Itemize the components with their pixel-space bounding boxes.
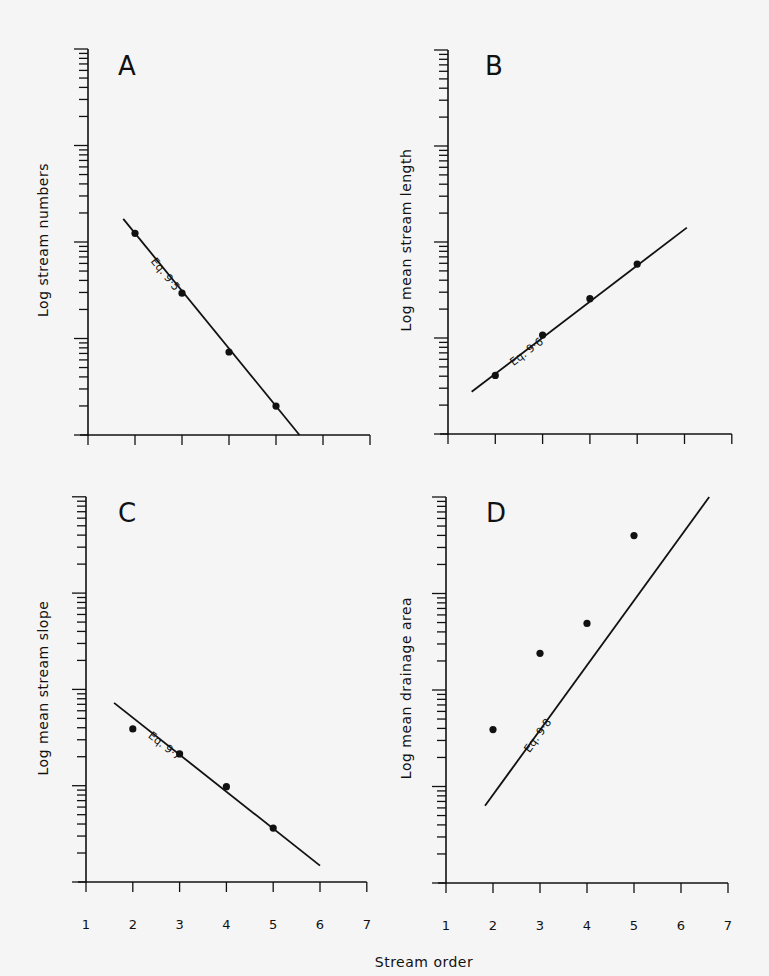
x-tick-label: 2 <box>129 917 137 932</box>
panel-letter: D <box>486 498 506 528</box>
data-point <box>583 620 590 627</box>
panel-d: 1234567DLog mean drainage areaEq. 9·8 <box>398 497 732 933</box>
data-point <box>492 372 499 379</box>
data-point <box>176 750 183 757</box>
x-tick-label: 6 <box>316 917 324 932</box>
data-point <box>634 260 641 267</box>
data-point <box>586 295 593 302</box>
data-point <box>630 532 637 539</box>
x-tick-label: 6 <box>677 918 685 933</box>
equation-label: Eq. 9·7 <box>146 729 184 763</box>
panel-letter: A <box>118 51 136 81</box>
data-point <box>536 650 543 657</box>
fit-line <box>472 228 687 392</box>
y-axis-label: Log mean stream length <box>398 149 414 332</box>
y-axis-label: Log stream numbers <box>35 163 51 317</box>
data-point <box>225 348 232 355</box>
stream-order-figure: ALog stream numbersEq. 9·5BLog mean stre… <box>0 0 769 976</box>
x-tick-label: 4 <box>583 918 591 933</box>
x-tick-label: 1 <box>82 917 90 932</box>
panel-b: BLog mean stream lengthEq. 9·6 <box>398 50 732 444</box>
fit-line <box>123 219 299 435</box>
fit-line <box>114 703 320 866</box>
x-tick-label: 4 <box>222 917 230 932</box>
panel-a: ALog stream numbersEq. 9·5 <box>35 49 370 445</box>
x-tick-label: 5 <box>630 918 638 933</box>
y-axis-label: Log mean drainage area <box>398 597 414 779</box>
data-point <box>270 824 277 831</box>
y-axis-label: Log mean stream slope <box>35 601 51 776</box>
panel-letter: C <box>118 498 136 528</box>
x-tick-label: 3 <box>536 918 544 933</box>
equation-label: Eq. 9·5 <box>148 255 182 293</box>
data-point <box>178 290 185 297</box>
x-tick-label: 1 <box>442 918 450 933</box>
x-tick-label: 7 <box>363 917 371 932</box>
data-point <box>223 783 230 790</box>
x-tick-label: 3 <box>175 917 183 932</box>
data-point <box>489 726 496 733</box>
equation-label: Eq. 9·6 <box>507 335 545 369</box>
data-point <box>539 332 546 339</box>
panel-c: 1234567CLog mean stream slopeEq. 9·7 <box>35 497 371 932</box>
panel-letter: B <box>485 51 503 81</box>
shared-x-axis-label: Stream order <box>375 954 473 970</box>
x-tick-label: 2 <box>489 918 497 933</box>
data-point <box>272 402 279 409</box>
equation-label: Eq. 9·8 <box>521 716 554 755</box>
x-tick-label: 5 <box>269 917 277 932</box>
x-tick-label: 7 <box>724 918 732 933</box>
data-point <box>129 725 136 732</box>
fit-line <box>485 497 709 806</box>
data-point <box>131 230 138 237</box>
